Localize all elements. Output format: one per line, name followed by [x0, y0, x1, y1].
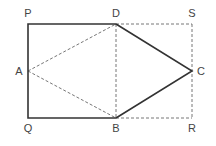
label-P: P — [24, 7, 31, 19]
segment-DPQB — [28, 24, 116, 118]
segment-DCB — [116, 24, 192, 118]
label-R: R — [188, 122, 196, 134]
label-D: D — [112, 7, 120, 19]
label-A: A — [15, 65, 23, 77]
label-C: C — [197, 65, 205, 77]
label-B: B — [112, 122, 119, 134]
segment-AB — [28, 71, 116, 118]
label-Q: Q — [24, 122, 33, 134]
geometry-diagram: P D S A C Q B R — [0, 0, 216, 146]
segment-AD — [28, 24, 116, 71]
label-S: S — [188, 7, 195, 19]
